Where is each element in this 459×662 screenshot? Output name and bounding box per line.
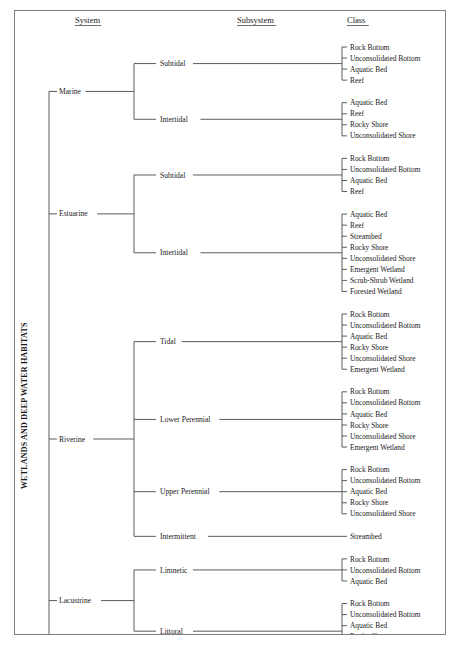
subsystem-label: Subtidal [160,59,185,68]
class-label: Rock Bottom [350,465,390,474]
class-label: Rock Bottom [350,387,390,396]
class-label: Rock Bottom [350,599,390,608]
class-label: Forested Wetland [350,287,402,296]
tree-node-labels: Rock BottomUnconsolidated BottomAquatic … [59,43,421,634]
class-label: Aquatic Bed [350,577,387,586]
column-header-subsystem: Subsystem [237,15,274,25]
figure-frame: SystemSubsystemClass Rock BottomUnconsol… [14,10,446,635]
class-label: Emergent Wetland [350,265,405,274]
class-label: Reef [350,76,364,85]
class-label: Emergent Wetland [350,365,405,374]
class-label: Aquatic Bed [350,621,387,630]
class-label: Reef [350,187,364,196]
class-label: Unconsolidated Bottom [350,54,421,63]
class-label: Reef [350,221,364,230]
subsystem-label: Intermittent [160,532,197,541]
class-label: Rocky Shore [350,243,389,252]
subsystem-label: Intertidal [160,248,188,257]
class-label: Streambed [350,232,382,241]
class-label: Aquatic Bed [350,210,387,219]
class-label: Unconsolidated Bottom [350,566,421,575]
class-label: Rocky Shore [350,421,389,430]
subsystem-label: Subtidal [160,171,185,180]
column-header-row: SystemSubsystemClass [75,15,369,26]
class-label: Unconsolidated Shore [350,509,416,518]
class-label: Emergent Wetland [350,443,405,452]
class-label: Rock Bottom [350,310,390,319]
class-label: Rocky Shore [350,632,389,634]
subsystem-label: Limnetic [160,566,188,575]
class-label: Aquatic Bed [350,487,387,496]
vertical-title-text: WETLANDS AND DEEP WATER HABITATS [20,322,29,489]
class-label: Aquatic Bed [350,176,387,185]
class-label: Rock Bottom [350,555,390,564]
class-label: Rock Bottom [350,154,390,163]
class-label: Unconsolidated Bottom [350,398,421,407]
class-label: Streambed [350,532,382,541]
classification-hierarchy-diagram: SystemSubsystemClass Rock BottomUnconsol… [15,11,445,634]
subsystem-label: Intertidal [160,115,188,124]
class-label: Unconsolidated Bottom [350,321,421,330]
subsystem-label: Upper Perennial [160,487,210,496]
system-label: Marine [59,87,82,96]
class-label: Unconsolidated Bottom [350,610,421,619]
class-label: Rocky Shore [350,120,389,129]
class-label: Rocky Shore [350,498,389,507]
class-label: Unconsolidated Shore [350,432,416,441]
subsystem-label: Lower Perennial [160,415,210,424]
system-label: Estuarine [59,209,88,218]
class-label: Aquatic Bed [350,65,387,74]
class-label: Rock Bottom [350,43,390,52]
tree-connector-lines [49,47,347,634]
class-label: Scrub-Shrub Wetland [350,276,414,285]
class-label: Aquatic Bed [350,332,387,341]
class-label: Unconsolidated Shore [350,131,416,140]
class-label: Unconsolidated Bottom [350,165,421,174]
subsystem-label: Littoral [160,627,183,634]
vertical-axis-title: WETLANDS AND DEEP WATER HABITATS [20,322,29,489]
system-label: Lacustrine [59,596,92,605]
class-label: Aquatic Bed [350,410,387,419]
column-header-system: System [75,15,100,25]
class-label: Rocky Shore [350,343,389,352]
class-label: Unconsolidated Bottom [350,476,421,485]
class-label: Unconsolidated Shore [350,254,416,263]
system-label: Riverine [59,435,86,444]
column-header-class: Class [347,15,365,25]
class-label: Aquatic Bed [350,98,387,107]
class-label: Unconsolidated Shore [350,354,416,363]
class-label: Reef [350,109,364,118]
subsystem-label: Tidal [160,337,176,346]
